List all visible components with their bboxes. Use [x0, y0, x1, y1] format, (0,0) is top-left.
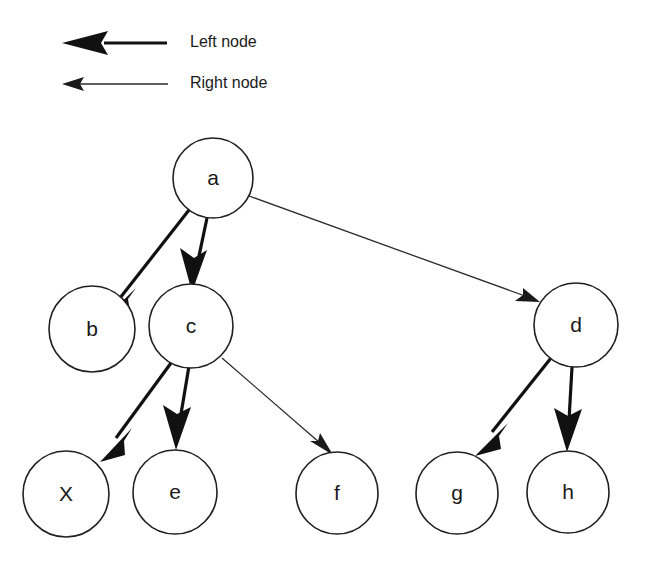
node-f-label: f	[334, 481, 340, 504]
node-e-label: e	[169, 480, 181, 503]
edge-c-e-arrowhead-icon	[163, 405, 191, 450]
edge-c-f	[222, 358, 333, 455]
edge-d-g	[475, 358, 551, 456]
edge-d-h	[554, 367, 582, 452]
node-c-label: c	[186, 314, 197, 337]
edge-c-f-arrowhead-icon	[310, 433, 333, 455]
node-b[interactable]: b	[49, 286, 135, 372]
node-x[interactable]: X	[23, 451, 109, 537]
tree-diagram: Left node Right node	[0, 0, 651, 562]
edge-d-g-arrowhead-icon	[475, 423, 508, 456]
node-b-label: b	[86, 317, 98, 340]
node-x-label: X	[59, 482, 73, 505]
edge-a-d-arrowhead-icon	[515, 288, 540, 302]
edge-c-x-line	[116, 363, 171, 438]
edge-c-x-arrowhead-icon	[100, 428, 132, 462]
edge-a-c	[180, 218, 207, 292]
legend: Left node Right node	[62, 31, 267, 91]
node-f[interactable]: f	[296, 452, 378, 534]
node-d-label: d	[570, 313, 582, 336]
legend-item-right: Right node	[62, 74, 267, 91]
edge-a-b-line	[120, 210, 189, 298]
node-a-label: a	[207, 166, 219, 189]
legend-item-left: Left node	[62, 31, 257, 55]
node-e[interactable]: e	[133, 450, 217, 534]
arrow-left-thick-icon	[62, 31, 108, 55]
node-c[interactable]: c	[149, 284, 233, 368]
node-h[interactable]: h	[527, 451, 609, 533]
node-h-label: h	[562, 480, 574, 503]
legend-right-label: Right node	[190, 74, 267, 91]
edge-c-f-line	[222, 358, 320, 443]
edge-a-d-line	[249, 196, 525, 296]
edge-c-x	[100, 363, 171, 462]
edge-a-d	[249, 196, 540, 302]
node-d[interactable]: d	[534, 283, 618, 367]
edge-d-g-line	[492, 358, 551, 432]
legend-left-label: Left node	[190, 33, 257, 50]
node-g[interactable]: g	[416, 452, 498, 534]
edge-c-e	[163, 366, 191, 450]
edge-d-h-line	[569, 367, 572, 420]
node-a[interactable]: a	[173, 138, 253, 218]
tree-diagram-canvas: Left node Right node	[0, 0, 651, 562]
nodes-layer: a b c d X e	[23, 138, 618, 537]
node-g-label: g	[451, 481, 463, 504]
